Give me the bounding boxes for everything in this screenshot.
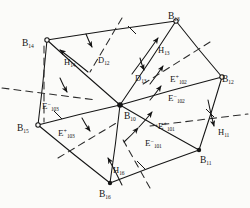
h-vector-label-H14-subscript: 14 [70, 62, 75, 68]
field-label-E102m: E−102 [168, 88, 185, 105]
node-B10[interactable] [117, 102, 123, 108]
node-label-B16: B16 [99, 184, 110, 201]
arrow-E103m [60, 78, 67, 92]
node-label-B13: B13 [168, 6, 179, 23]
tick-bottom [137, 161, 145, 169]
arrow-E103p [82, 118, 90, 131]
diagram-svg [0, 0, 250, 208]
node-B14[interactable] [45, 38, 49, 42]
field-label-E103m-subscript: 103 [51, 106, 59, 112]
field-label-E102p-subscript: 102 [179, 79, 187, 85]
h-vector-label-H13-subscript: 13 [164, 50, 169, 56]
field-label-E101p-subscript: 101 [167, 126, 175, 132]
edge-B14-B13 [47, 21, 176, 40]
field-label-E101p: E+101 [158, 116, 175, 133]
node-label-B16-subscript: 16 [105, 194, 110, 200]
h-vector-label-H14: H14 [64, 52, 75, 69]
d-vector-label-D13-subscript: 13 [141, 78, 146, 84]
d-vector-label-D12: D12 [98, 50, 109, 67]
node-label-B15-subscript: 15 [23, 128, 28, 134]
field-label-E102m-subscript: 102 [177, 98, 185, 104]
d-vector-label-D13: D13 [135, 68, 146, 85]
arrow-E101p [139, 112, 152, 127]
node-label-B11-subscript: 11 [206, 160, 211, 166]
node-label-B10: B10 [124, 106, 135, 123]
arrow-D12 [86, 34, 92, 47]
node-label-B11: B11 [200, 150, 211, 167]
h-vector-label-H11-subscript: 11 [224, 132, 229, 138]
field-label-E103p-subscript: 103 [67, 133, 75, 139]
node-label-B12-subscript: 12 [228, 79, 233, 85]
h-vector-label-H16-subscript: 16 [119, 170, 124, 176]
h-vector-label-H16: H16 [113, 160, 124, 177]
figure-canvas: B14B13B12B11B16B15B10E+102E−102E+101E−10… [0, 0, 250, 208]
field-label-E101m-subscript: 101 [154, 143, 162, 149]
arrow-E102m [150, 86, 161, 100]
node-B15[interactable] [36, 123, 40, 127]
node-label-B13-subscript: 13 [174, 16, 179, 22]
node-label-B14: B14 [22, 33, 33, 50]
arrow-H11 [208, 100, 214, 126]
lattice-edges [38, 21, 222, 183]
node-label-B14-subscript: 14 [28, 43, 33, 49]
field-label-E103m: E−103 [42, 96, 59, 113]
arrow-E101m [124, 128, 138, 142]
h-vector-label-H13: H13 [158, 40, 169, 57]
d-vector-label-D12-subscript: 12 [104, 60, 109, 66]
h-vector-label-H11: H11 [218, 122, 229, 139]
node-label-B15: B15 [17, 118, 28, 135]
node-label-B10-subscript: 10 [130, 116, 135, 122]
field-label-E103p: E+103 [58, 123, 75, 140]
node-label-B12: B12 [222, 69, 233, 86]
arrow-E102p [150, 66, 163, 84]
field-label-E102p: E+102 [170, 69, 187, 86]
field-label-E101m: E−101 [145, 133, 162, 150]
